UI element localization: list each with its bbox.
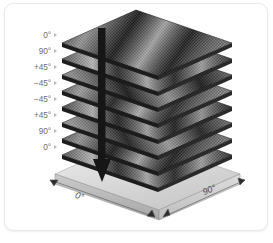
- figure-card: 0° 90° +45° −45° −45° +45° 90° 0° 0° 90°: [4, 3, 268, 231]
- ply-label-4: −45°: [11, 79, 51, 88]
- ply-label-7: 90°: [11, 127, 51, 136]
- ply-tick-icon-7: [54, 129, 57, 133]
- ply-label-5: −45°: [11, 95, 51, 104]
- ply-tick-icon-3: [54, 65, 57, 69]
- ply-tick-icon-5: [54, 97, 57, 101]
- ply-label-1: 0°: [11, 31, 51, 40]
- ply-tick-icon-2: [54, 49, 57, 53]
- ply-tick-icon-6: [54, 113, 57, 117]
- ply-tick-icon-4: [54, 81, 57, 85]
- laminate-diagram: 0° 90° +45° −45° −45° +45° 90° 0° 0° 90°: [5, 4, 267, 230]
- ply-label-2: 90°: [11, 47, 51, 56]
- ply-tick-icon-1: [54, 33, 57, 37]
- ply-label-8: 0°: [11, 143, 51, 152]
- ply-label-6: +45°: [11, 111, 51, 120]
- ply-tick-icon-8: [54, 145, 57, 149]
- ply-label-3: +45°: [11, 63, 51, 72]
